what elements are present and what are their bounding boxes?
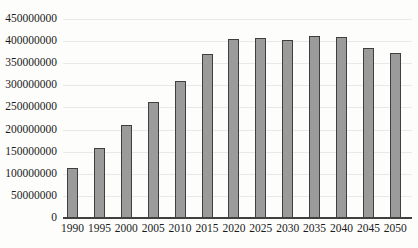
plot-area — [63, 19, 412, 218]
y-axis-tick-label: 100000000 — [0, 167, 57, 180]
bar-1990 — [67, 168, 78, 218]
y-axis-tick-label: 200000000 — [0, 123, 57, 136]
y-axis-tick-label: 400000000 — [0, 34, 57, 47]
gridline — [63, 19, 412, 20]
y-axis-tick-label: 450000000 — [0, 12, 57, 25]
bar-2015 — [202, 54, 213, 218]
bar-1995 — [94, 148, 105, 218]
y-axis-tick-label: 300000000 — [0, 78, 57, 91]
bar-2010 — [175, 81, 186, 218]
bar-2020 — [228, 39, 239, 218]
bar-2045 — [363, 48, 374, 218]
y-axis-tick-label: 150000000 — [0, 145, 57, 158]
y-axis-tick-label: 350000000 — [0, 56, 57, 69]
y-axis-tick-label: 250000000 — [0, 100, 57, 113]
bar-2005 — [148, 102, 159, 218]
y-axis-tick-label: 50000000 — [0, 189, 57, 202]
x-axis-tick-label: 2050 — [378, 222, 412, 235]
bar-2040 — [336, 37, 347, 218]
bar-2000 — [121, 125, 132, 218]
bar-2035 — [309, 36, 320, 218]
bar-2025 — [255, 38, 266, 218]
bar-2050 — [390, 53, 401, 218]
bar-chart: 0500000001000000001500000002000000002500… — [0, 0, 418, 248]
y-axis-tick-label: 0 — [0, 211, 57, 224]
x-axis-line — [63, 217, 412, 219]
bar-2030 — [282, 40, 293, 218]
